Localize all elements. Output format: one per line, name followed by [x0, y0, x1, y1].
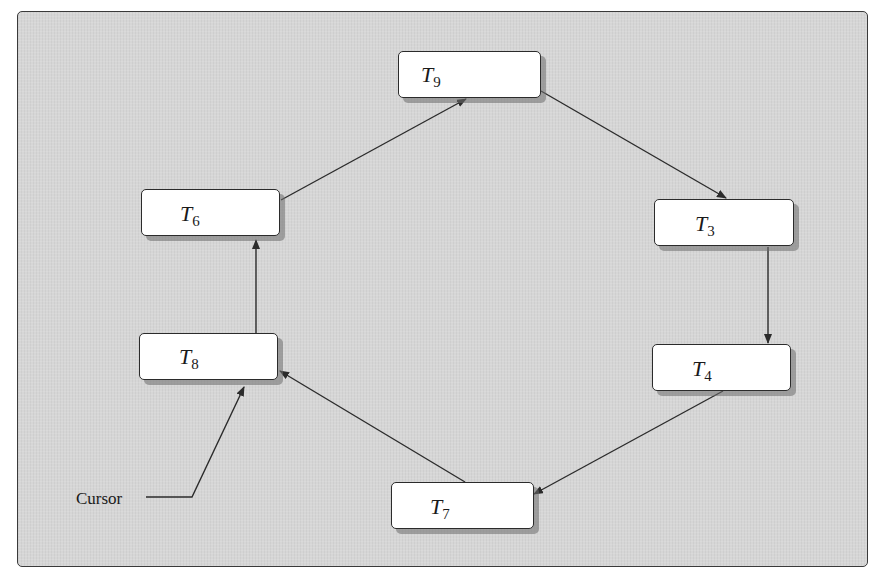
node-label: T6	[180, 203, 200, 229]
node-t9: T9	[398, 51, 541, 98]
cursor-label: Cursor	[76, 489, 122, 509]
node-t3: T3	[654, 199, 794, 246]
node-t8: T8	[139, 333, 278, 380]
node-label: T8	[179, 346, 199, 372]
node-t4: T4	[652, 344, 791, 391]
node-label: T7	[430, 496, 450, 522]
node-t7: T7	[391, 482, 534, 529]
node-label: T9	[421, 64, 441, 90]
node-label: T4	[692, 358, 712, 384]
node-t6: T6	[141, 189, 280, 236]
node-label: T3	[695, 213, 715, 239]
